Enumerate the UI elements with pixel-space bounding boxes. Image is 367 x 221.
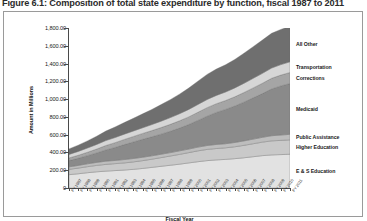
stacked-area-svg bbox=[69, 28, 290, 188]
x-axis-tick bbox=[253, 188, 254, 191]
y-axis-tick bbox=[64, 81, 68, 82]
y-axis-tick bbox=[64, 170, 68, 171]
x-axis-tick bbox=[198, 188, 199, 191]
x-axis-tick bbox=[152, 188, 153, 191]
y-axis-tick bbox=[64, 152, 68, 153]
legend-label: Transportation bbox=[296, 64, 332, 70]
x-axis-tick bbox=[207, 188, 208, 191]
x-axis-tick bbox=[262, 188, 263, 191]
x-axis-tick bbox=[290, 188, 291, 191]
legend-label: E & S Education bbox=[296, 168, 335, 174]
y-axis-tick bbox=[64, 117, 68, 118]
y-axis-tick bbox=[64, 46, 68, 47]
y-axis-tick bbox=[64, 28, 68, 29]
y-axis-tick-label: 1,600.00 bbox=[45, 43, 66, 49]
y-axis-tick-label: 1,200.00 bbox=[45, 78, 66, 84]
x-axis-tick-labels: FY 1987FY 1988FY 1989FY 1990FY 1991FY 19… bbox=[69, 190, 294, 214]
chart-legend: All OtherTransportationCorrectionsMedica… bbox=[296, 28, 367, 193]
x-axis-tick bbox=[272, 188, 273, 191]
x-axis-tick bbox=[106, 188, 107, 191]
y-axis-tick-label: 1,400.00 bbox=[45, 61, 66, 67]
legend-label: Corrections bbox=[296, 75, 325, 81]
x-axis-tick bbox=[161, 188, 162, 191]
figure-container: Figure 6.1: Composition of total state e… bbox=[0, 0, 367, 221]
y-axis-tick bbox=[64, 99, 68, 100]
legend-label: Public Assistance bbox=[296, 134, 339, 140]
x-axis-tick bbox=[189, 188, 190, 191]
x-axis-tick bbox=[143, 188, 144, 191]
y-axis-tick-label: 1,000.00 bbox=[45, 96, 66, 102]
x-axis-tick bbox=[78, 188, 79, 191]
y-axis-tick-label: 1,800.00 bbox=[45, 25, 66, 31]
x-axis-tick bbox=[180, 188, 181, 191]
x-axis-tick bbox=[133, 188, 134, 191]
x-axis-tick bbox=[216, 188, 217, 191]
y-axis-tick bbox=[64, 135, 68, 136]
chart-frame: Amount in Millions 0200.00400.00600.0080… bbox=[3, 11, 363, 217]
plot-area bbox=[69, 28, 290, 188]
x-axis-tick bbox=[124, 188, 125, 191]
x-axis-tick bbox=[226, 188, 227, 191]
x-axis-tick bbox=[235, 188, 236, 191]
legend-label: Higher Education bbox=[296, 144, 338, 150]
legend-label: Medicaid bbox=[296, 106, 318, 112]
x-axis-tick bbox=[115, 188, 116, 191]
y-axis-tick bbox=[64, 64, 68, 65]
figure-caption: Figure 6.1: Composition of total state e… bbox=[2, 0, 365, 9]
x-axis-title: Fiscal Year bbox=[69, 216, 290, 221]
x-axis-tick bbox=[244, 188, 245, 191]
x-axis-tick bbox=[170, 188, 171, 191]
legend-label: All Other bbox=[296, 41, 317, 47]
y-axis-tick-labels: 0200.00400.00600.00800.001,000.001,200.0… bbox=[26, 28, 66, 188]
x-axis-tick bbox=[281, 188, 282, 191]
x-axis-tick bbox=[97, 188, 98, 191]
y-axis-tick bbox=[64, 188, 68, 189]
x-axis-tick bbox=[69, 188, 70, 191]
x-axis-tick bbox=[87, 188, 88, 191]
